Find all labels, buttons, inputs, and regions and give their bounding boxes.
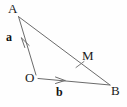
vertex-label-A: A: [8, 2, 17, 15]
segment-OB: [38, 79, 110, 86]
vertex-label-M: M: [82, 49, 94, 62]
vertex-label-O: O: [25, 71, 34, 84]
geometry-figure: A O B M a b: [0, 0, 127, 107]
vector-label-b: b: [56, 86, 63, 98]
vertex-label-B: B: [111, 84, 120, 97]
vector-label-a: a: [6, 31, 12, 43]
figure-canvas: [0, 0, 127, 107]
segment-OA: [19, 17, 37, 76]
